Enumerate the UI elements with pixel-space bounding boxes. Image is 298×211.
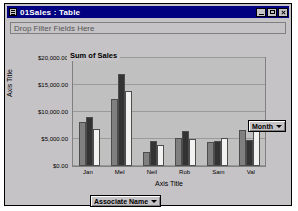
drop-filter-fields-area[interactable]: Drop Filter Fields Here [10, 22, 286, 34]
client-area: Drop Filter Fields Here Sum of Sales Axi… [7, 19, 289, 203]
x-axis-tick-label: Jan [83, 169, 93, 179]
bar[interactable] [86, 117, 93, 166]
window-title: 01Sales : Table [20, 8, 80, 17]
bar[interactable] [189, 139, 196, 166]
maximize-icon[interactable] [267, 8, 277, 17]
access-pivotchart-window: 01Sales : Table Drop Filter Fields Here … [4, 3, 292, 206]
close-icon[interactable] [278, 8, 288, 17]
y-axis: Axis Title $0.00$5,000.00$10,000.00$15,0… [10, 57, 72, 169]
bar[interactable] [253, 126, 260, 166]
series-field-button[interactable]: Month [248, 120, 286, 132]
y-axis-tick-label: $15,000.00 [38, 82, 68, 88]
bar-group [111, 58, 132, 166]
bar[interactable] [93, 129, 100, 166]
bar[interactable] [214, 141, 221, 166]
bar[interactable] [239, 130, 246, 166]
window-controls [256, 8, 288, 17]
bar-group [143, 58, 164, 166]
x-axis-title: Axis Title [72, 180, 266, 187]
bar[interactable] [207, 142, 214, 166]
table-icon[interactable] [9, 8, 17, 16]
bar-group [79, 58, 100, 166]
y-axis-tick-label: $10,000.00 [38, 109, 68, 115]
chevron-down-icon [276, 125, 282, 128]
bar[interactable] [111, 99, 118, 166]
chart-area: Sum of Sales Axis Title $0.00$5,000.00$1… [10, 36, 286, 200]
category-field-button[interactable]: Associate Name [90, 195, 161, 207]
y-axis-tick-label: $20,000.00 [38, 55, 68, 61]
y-axis-title: Axis Title [6, 69, 13, 97]
x-axis-tick-labels: JanMelNeilRobSamVal [72, 169, 266, 179]
filter-placeholder: Drop Filter Fields Here [11, 24, 94, 33]
bar[interactable] [118, 74, 125, 166]
x-axis-tick-label: Neil [147, 169, 157, 179]
bar[interactable] [246, 140, 253, 166]
bar[interactable] [221, 138, 228, 166]
bar[interactable] [125, 91, 132, 166]
bar-group [239, 58, 260, 166]
x-axis-tick-label: Sam [212, 169, 224, 179]
x-axis-tick-label: Val [247, 169, 255, 179]
bar-group [207, 58, 228, 166]
x-axis-tick-label: Mel [115, 169, 125, 179]
plot-area [72, 57, 266, 167]
series-field-label: Month [252, 123, 273, 130]
chart-title: Sum of Sales [67, 50, 120, 61]
title-bar[interactable]: 01Sales : Table [7, 6, 289, 18]
bar[interactable] [150, 141, 157, 166]
bar[interactable] [175, 138, 182, 166]
bar-groups [73, 58, 265, 166]
chevron-down-icon [151, 200, 157, 203]
y-axis-tick-label: $5,000.00 [41, 136, 68, 142]
bar[interactable] [79, 122, 86, 166]
minimize-icon[interactable] [256, 8, 266, 17]
bar[interactable] [157, 145, 164, 166]
bar[interactable] [182, 131, 189, 166]
bar[interactable] [143, 152, 150, 166]
bar-group [175, 58, 196, 166]
y-axis-tick-label: $0.00 [53, 163, 68, 169]
category-field-label: Associate Name [94, 198, 148, 205]
x-axis-tick-label: Rob [179, 169, 190, 179]
